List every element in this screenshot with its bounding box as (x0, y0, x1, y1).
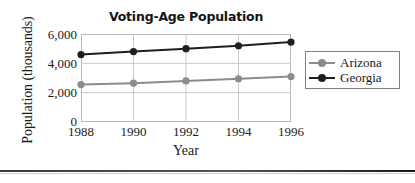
x-axis-tick-labels: 1988 1990 1992 1994 1996 (81, 124, 291, 144)
plot-area (81, 34, 291, 122)
data-point-georgia-1996 (287, 38, 294, 45)
y-axis-tick-labels: 6,000 4,000 2,000 0 (31, 0, 77, 183)
chart-title: Voting-Age Population (81, 9, 291, 24)
data-point-georgia-1994 (235, 42, 242, 49)
data-point-arizona-1992 (182, 77, 189, 84)
legend-item-arizona: Arizona (309, 55, 395, 70)
x-tick-label-1996: 1996 (268, 124, 314, 140)
x-tick-label-1992: 1992 (163, 124, 209, 140)
data-point-arizona-1994 (235, 75, 242, 82)
chart-legend: Arizona Georgia (305, 51, 400, 89)
chart-figure: Voting-Age Population Population (thousa… (0, 0, 415, 183)
x-tick-label-1988: 1988 (58, 124, 104, 140)
y-tick-label-6000: 6,000 (33, 27, 77, 43)
data-point-georgia-1988 (77, 51, 84, 58)
data-point-arizona-1988 (77, 81, 84, 88)
legend-label-arizona: Arizona (335, 55, 382, 71)
y-tick-label-2000: 2,000 (33, 85, 77, 101)
x-tick-label-1990: 1990 (111, 124, 157, 140)
legend-marker-arizona-icon (309, 57, 335, 69)
y-tick-label-4000: 4,000 (33, 56, 77, 72)
data-point-georgia-1990 (130, 48, 137, 55)
x-axis-title: Year (81, 143, 291, 159)
legend-label-georgia: Georgia (335, 70, 382, 86)
data-point-georgia-1992 (182, 45, 189, 52)
x-tick-label-1994: 1994 (216, 124, 262, 140)
legend-item-georgia: Georgia (309, 70, 395, 85)
page-divider-rule-shadow (0, 173, 415, 174)
data-point-arizona-1996 (287, 73, 294, 80)
page-divider-rule (0, 170, 415, 172)
legend-marker-georgia-icon (309, 72, 335, 84)
data-point-arizona-1990 (130, 80, 137, 87)
